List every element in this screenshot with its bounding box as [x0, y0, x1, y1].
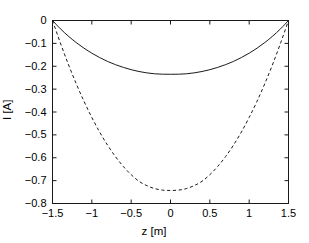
y-tick-label: −0.1 — [3, 38, 47, 49]
figure-canvas: −1.5−1−0.500.511.5 0−0.1−0.2−0.3−0.4−0.5… — [0, 0, 308, 243]
x-tick-label: −1.5 — [33, 208, 73, 219]
y-axis-title: I [A] — [2, 80, 14, 140]
x-tick-label: 0 — [151, 208, 191, 219]
x-tick-label: 1.5 — [269, 208, 309, 219]
y-tick-label: −0.6 — [3, 152, 47, 163]
x-tick-label: 0.5 — [190, 208, 230, 219]
y-tick-label: −0.2 — [3, 61, 47, 72]
axes-box — [53, 21, 289, 204]
y-tick-label: 0 — [3, 15, 47, 26]
x-tick-label: −1 — [72, 208, 112, 219]
x-axis-title: z [m] — [0, 226, 308, 238]
axes-frame — [53, 21, 289, 204]
y-tick-label: −0.8 — [3, 198, 47, 209]
y-tick-label: −0.7 — [3, 175, 47, 186]
x-tick-label: −0.5 — [111, 208, 151, 219]
x-tick-label: 1 — [229, 208, 269, 219]
